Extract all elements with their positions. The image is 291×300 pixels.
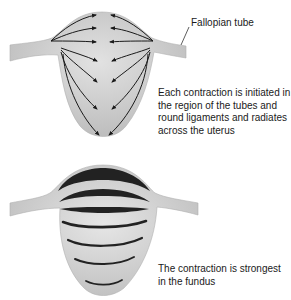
strength-caption: The contraction is strongest in the fund…: [158, 263, 291, 288]
initiation-caption: Each contraction is initiated in the reg…: [158, 87, 291, 137]
fallopian-tube-label: Fallopian tube: [191, 17, 254, 30]
tube-pointer-line: [181, 27, 189, 45]
diagram-canvas: [0, 0, 291, 300]
